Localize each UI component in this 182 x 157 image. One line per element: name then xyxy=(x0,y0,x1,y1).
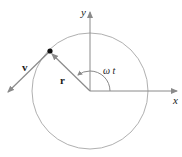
velocity-vector-label: v xyxy=(22,61,28,73)
y-axis-label: y xyxy=(80,6,86,18)
angle-label: ω t xyxy=(103,65,116,76)
position-vector-r xyxy=(52,54,90,91)
particle xyxy=(47,48,52,53)
position-vector-label: r xyxy=(60,74,65,86)
x-axis-label: x xyxy=(172,94,178,106)
velocity-vector-v xyxy=(8,51,50,92)
circular-motion-diagram: y x r v ω t xyxy=(0,0,182,157)
